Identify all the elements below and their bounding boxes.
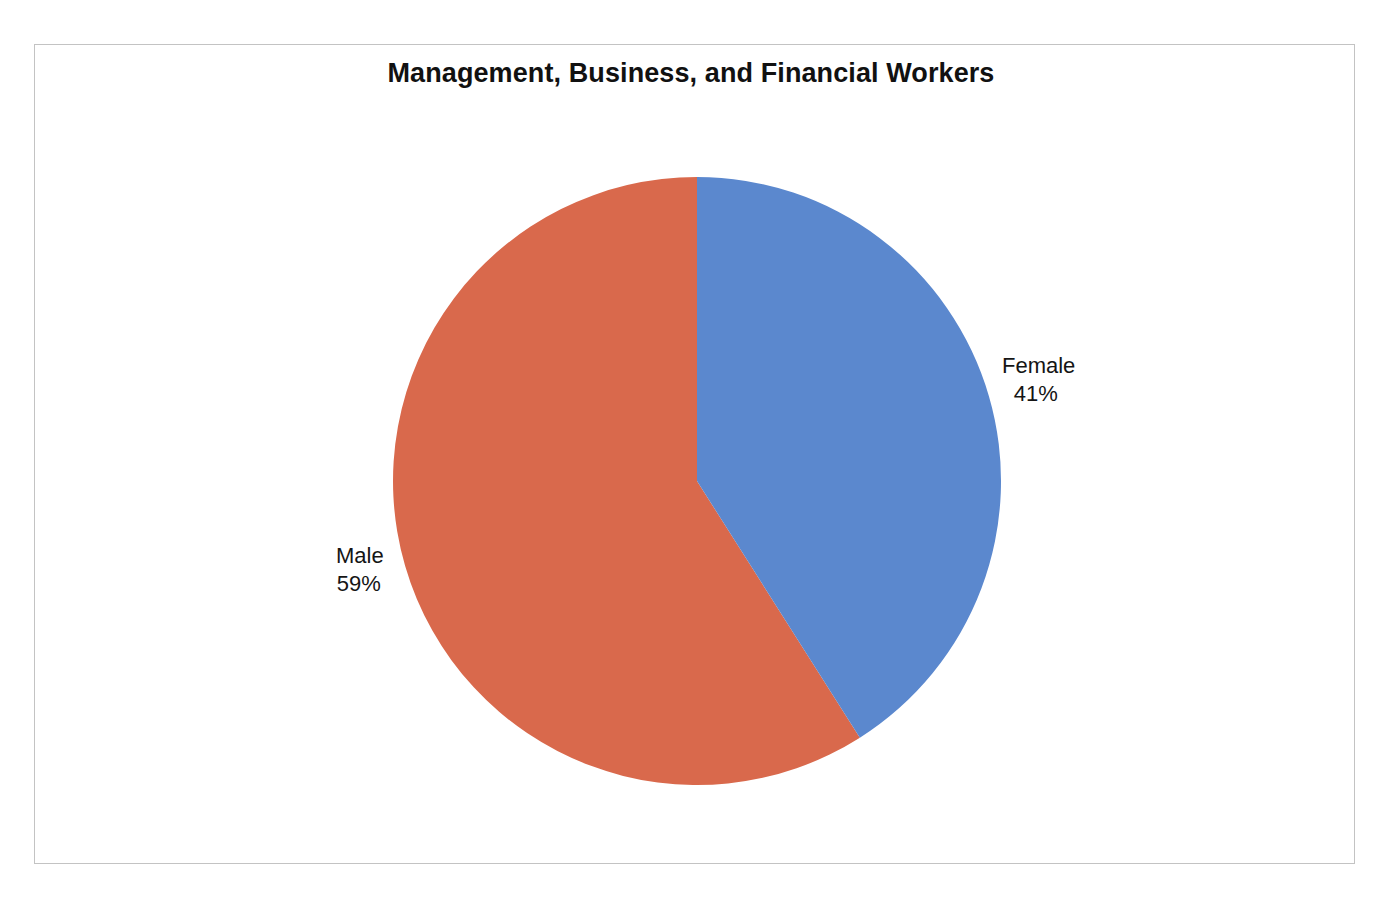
pie-label-female: Female 41% bbox=[1002, 352, 1075, 408]
pie-label-male: Male 59% bbox=[336, 542, 384, 598]
pie-label-female-name: Female bbox=[1002, 352, 1075, 380]
pie-label-male-value: 59% bbox=[336, 570, 384, 598]
pie-label-male-name: Male bbox=[336, 542, 384, 570]
pie-chart bbox=[0, 0, 1382, 898]
pie-label-female-value: 41% bbox=[1002, 380, 1075, 408]
chart-figure: Management, Business, and Financial Work… bbox=[0, 0, 1382, 898]
